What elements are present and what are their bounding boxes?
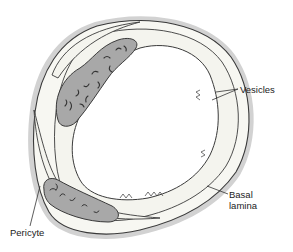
- label-pericyte: Pericyte: [10, 227, 44, 238]
- label-basal-lamina-line2: lamina: [229, 200, 257, 211]
- capillary-diagram: [0, 0, 293, 252]
- label-vesicles: Vesicles: [240, 84, 275, 95]
- pericyte-leader: [30, 186, 40, 226]
- label-basal-lamina-line1: Basal: [229, 189, 253, 200]
